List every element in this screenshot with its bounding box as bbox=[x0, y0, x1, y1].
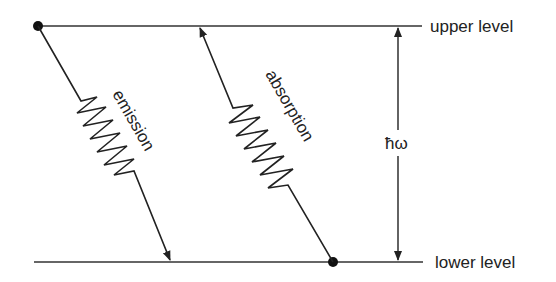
absorption-wavy-arrow bbox=[200, 28, 333, 262]
energy-gap-label: ħω bbox=[385, 134, 408, 153]
upper-level-label: upper level bbox=[430, 17, 513, 36]
energy-level-diagram: emission absorption ħω upper level lower… bbox=[0, 0, 556, 282]
absorption-transition bbox=[200, 28, 338, 267]
lower-level-label: lower level bbox=[435, 253, 515, 272]
emission-label: emission bbox=[109, 87, 159, 155]
absorption-label: absorption bbox=[262, 67, 318, 145]
